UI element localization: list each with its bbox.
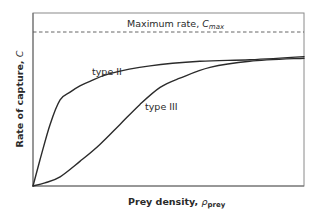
type-iii-curve <box>33 58 304 186</box>
type-iii-label: type III <box>145 101 178 112</box>
type-ii-label: type II <box>92 66 122 77</box>
functional-response-chart: Maximum rate, Cmax type II type III Prey… <box>0 0 318 213</box>
max-rate-label: Maximum rate, Cmax <box>127 18 225 31</box>
plot-frame <box>33 13 304 186</box>
y-axis-title: Rate of capture, C <box>14 50 25 147</box>
x-axis-title: Prey density, ρprey <box>128 196 226 209</box>
